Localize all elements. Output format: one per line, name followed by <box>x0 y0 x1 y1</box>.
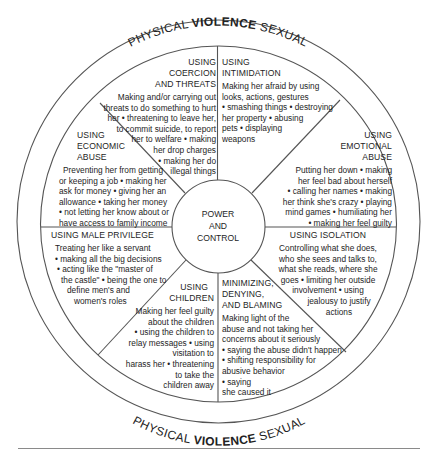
segment-body: Treating her like a servant • making all… <box>51 243 167 307</box>
hub-line: POWER <box>180 208 256 220</box>
segment-title: USING ISOLATION <box>268 230 388 241</box>
segment-male-privilege: USING MALE PRIVILEGE Treating her like a… <box>51 230 167 307</box>
segment-body: Making light of the abuse and not taking… <box>222 313 342 398</box>
segment-body: Preventing her from getting or keeping a… <box>59 165 169 229</box>
segment-title: USING ECONOMIC ABUSE <box>59 130 169 163</box>
segment-body: Making her feel guilty about the childre… <box>126 306 214 391</box>
segment-title: USING EMOTIONAL ABUSE <box>283 130 392 163</box>
segment-title: USING COERCION AND THREATS <box>103 57 216 90</box>
ring-label-bottom: PHYSICAL VIOLENCE SEXUAL <box>131 413 308 448</box>
hub-line: AND <box>180 220 256 232</box>
segment-economic-abuse: USING ECONOMIC ABUSE Preventing her from… <box>59 130 169 229</box>
segment-minimizing-denying-blaming: MINIMIZING, DENYING, AND BLAMING Making … <box>222 278 342 398</box>
segment-body: Putting her down • making her feel bad a… <box>283 165 392 229</box>
segment-title: USING MALE PRIVILEGE <box>51 230 167 241</box>
ring-label-top: PHYSICAL VIOLENCE SEXUAL <box>126 15 311 50</box>
segment-title: USING INTIMIDATION <box>222 57 333 79</box>
segment-emotional-abuse: USING EMOTIONAL ABUSE Putting her down •… <box>283 130 392 229</box>
segment-title: MINIMIZING, DENYING, AND BLAMING <box>222 278 342 311</box>
hub-label: POWER AND CONTROL <box>180 208 256 244</box>
hub-line: CONTROL <box>180 232 256 244</box>
bottom-rule-divider <box>18 448 420 449</box>
